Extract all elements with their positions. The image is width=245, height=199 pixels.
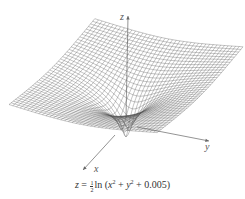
caption-func: ln <box>94 179 102 190</box>
y-axis-label: y <box>205 141 209 152</box>
caption-equals: = <box>81 179 87 190</box>
caption-lhs: z <box>75 179 79 190</box>
equation-caption: z = 12ln (x2 + y2 + 0.005) <box>0 179 245 193</box>
x-axis-label: x <box>94 163 98 174</box>
z-axis-label: z <box>120 11 124 22</box>
caption-fraction: 12 <box>90 180 93 193</box>
surface-plot <box>0 0 245 199</box>
